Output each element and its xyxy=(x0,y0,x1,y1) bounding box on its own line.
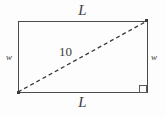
label-length-bottom: L xyxy=(0,95,165,110)
corner-dot-bottom-left xyxy=(17,91,20,94)
label-diagonal-value: 10 xyxy=(59,45,72,58)
rectangle-shape xyxy=(18,21,148,93)
label-width-left: w xyxy=(6,53,12,62)
geometry-figure: L L w w 10 xyxy=(0,0,165,117)
label-width-right: w xyxy=(151,53,157,62)
corner-dot-top-right xyxy=(145,19,148,22)
right-angle-marker-icon xyxy=(139,85,147,93)
label-length-top: L xyxy=(0,3,165,18)
